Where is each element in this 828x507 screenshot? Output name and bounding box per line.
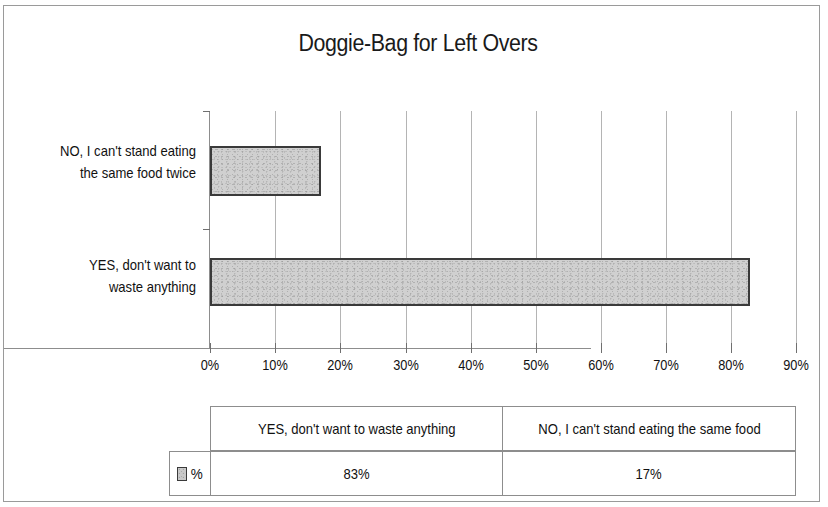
value-tick-10 — [275, 343, 276, 353]
value-tick-20 — [340, 343, 341, 353]
value-tick-90 — [796, 343, 797, 353]
value-tick-label-40: 40% — [448, 357, 494, 373]
plot-area — [210, 111, 796, 348]
value-tick-80 — [731, 343, 732, 353]
table-header-no: NO, I can't stand eating the same food — [502, 406, 796, 451]
category-label-yes-line1: YES, don't want to — [34, 254, 196, 276]
gridline-70 — [666, 111, 667, 348]
category-tick-top — [203, 111, 210, 112]
value-tick-70 — [666, 343, 667, 353]
category-label-no: NO, I can't stand eating the same food t… — [34, 140, 196, 184]
value-tick-40 — [471, 343, 472, 353]
value-tick-label-20: 20% — [317, 357, 363, 373]
value-tick-label-80: 80% — [708, 357, 754, 373]
gridline-30 — [406, 111, 407, 348]
category-label-yes: YES, don't want to waste anything — [34, 254, 196, 298]
gridline-90 — [796, 111, 797, 348]
value-tick-label-10: 10% — [252, 357, 298, 373]
data-table: % YES, don't want to waste anything NO, … — [169, 406, 796, 496]
value-tick-label-90: 90% — [773, 357, 819, 373]
table-header-yes: YES, don't want to waste anything — [210, 406, 503, 451]
value-tick-label-30: 30% — [383, 357, 429, 373]
gridline-50 — [536, 111, 537, 348]
category-tick-mid — [203, 229, 210, 230]
value-axis-line — [4, 348, 591, 349]
value-tick-50 — [536, 343, 537, 353]
value-tick-label-70: 70% — [643, 357, 689, 373]
gridline-20 — [340, 111, 341, 348]
category-label-no-line1: NO, I can't stand eating — [34, 140, 196, 162]
value-tick-0 — [210, 343, 211, 353]
legend-swatch-icon — [177, 467, 187, 481]
value-tick-label-50: 50% — [513, 357, 559, 373]
legend-cell: % — [169, 451, 211, 496]
category-label-yes-line2: waste anything — [34, 276, 196, 298]
legend-series-label: % — [190, 465, 202, 482]
bar-no[interactable] — [210, 146, 321, 196]
chart-title: Doggie-Bag for Left Overs — [33, 30, 803, 57]
chart-page: Doggie-Bag for Left Overs NO, I can't st… — [0, 0, 828, 507]
gridline-60 — [601, 111, 602, 348]
bar-yes[interactable] — [210, 258, 750, 306]
category-label-no-line2: the same food twice — [34, 162, 196, 184]
gridline-40 — [471, 111, 472, 348]
value-tick-60 — [601, 343, 602, 353]
value-tick-label-60: 60% — [578, 357, 624, 373]
table-value-yes: 83% — [210, 451, 503, 496]
gridline-80 — [731, 111, 732, 348]
value-tick-30 — [406, 343, 407, 353]
chart-frame: Doggie-Bag for Left Overs NO, I can't st… — [3, 5, 820, 502]
value-tick-label-0: 0% — [187, 357, 233, 373]
table-value-no: 17% — [502, 451, 796, 496]
